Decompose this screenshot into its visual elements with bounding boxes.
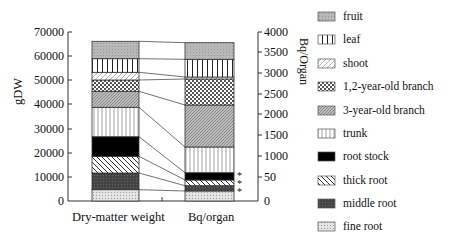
segment-trunk bbox=[185, 147, 234, 173]
right-axis bbox=[258, 32, 262, 201]
x-label-bq-organ: Bq/organ bbox=[188, 211, 234, 224]
left-tick-label: 70000 bbox=[16, 26, 64, 38]
segment-3yr-branch bbox=[185, 105, 234, 147]
right-tick-label: 4000 bbox=[264, 26, 288, 38]
right-tick-label: 1000 bbox=[264, 150, 288, 162]
left-tick-label: 0 bbox=[16, 195, 64, 207]
segment-fine-root bbox=[185, 191, 234, 201]
segment-shoot bbox=[92, 72, 139, 80]
segment-3yr-branch bbox=[92, 91, 139, 107]
segment-thick-root bbox=[92, 156, 139, 173]
left-tick-label: 10000 bbox=[16, 171, 64, 183]
legend-item-root-stock: root stock bbox=[343, 151, 389, 163]
right-axis-title: Bq/Organ bbox=[298, 38, 310, 85]
left-tick-label: 30000 bbox=[16, 123, 64, 135]
legend-item-leaf: leaf bbox=[343, 34, 360, 46]
right-tick-label: 1500 bbox=[264, 129, 288, 141]
legend-item-trunk: trunk bbox=[343, 128, 367, 140]
legend-item-middle-root: middle root bbox=[343, 198, 396, 210]
segment-fine-root bbox=[92, 190, 139, 201]
segment-12yr-branch bbox=[185, 79, 234, 105]
segment-leaf bbox=[185, 59, 234, 77]
legend-item-fruit: fruit bbox=[343, 11, 363, 23]
segment-root-stock bbox=[185, 173, 234, 180]
segment-root-stock bbox=[92, 137, 139, 157]
left-tick-label: 20000 bbox=[16, 147, 64, 159]
right-tick-label: 2500 bbox=[264, 88, 288, 100]
bar-bq-organ bbox=[185, 43, 234, 201]
legend-item-shoot: shoot bbox=[343, 58, 368, 70]
legend-item-12yr-branch: 1,2-year-old branch bbox=[343, 81, 433, 93]
legend-item-3yr-branch: 3-year-old branch bbox=[343, 105, 425, 117]
segment-12yr-branch bbox=[92, 80, 139, 91]
right-tick-label: 50 bbox=[264, 171, 276, 183]
connector-lines bbox=[139, 41, 185, 191]
legend-item-fine-root: fine root bbox=[343, 221, 382, 233]
segment-middle-root bbox=[92, 173, 139, 190]
right-tick-label: 0 bbox=[264, 195, 270, 207]
segment-fruit bbox=[185, 43, 234, 60]
segment-leaf bbox=[92, 59, 139, 73]
segment-thick-root bbox=[185, 180, 234, 186]
bar-dry-matter-weight bbox=[92, 41, 139, 201]
right-tick-label: 3000 bbox=[264, 67, 288, 79]
left-tick-label: 60000 bbox=[16, 50, 64, 62]
legend-swatches bbox=[318, 12, 335, 231]
right-tick-label: 2000 bbox=[264, 108, 288, 120]
legend-item-thick-root: thick root bbox=[343, 175, 387, 187]
segment-middle-root bbox=[185, 186, 234, 191]
segment-trunk bbox=[92, 107, 139, 136]
right-tick-label: 3500 bbox=[264, 46, 288, 58]
x-label-dry-matter: Dry-matter weight bbox=[72, 211, 165, 224]
asterisk-middle-root: * bbox=[237, 187, 242, 197]
left-axis-title: gDW bbox=[12, 78, 25, 105]
segment-fruit bbox=[92, 41, 139, 58]
